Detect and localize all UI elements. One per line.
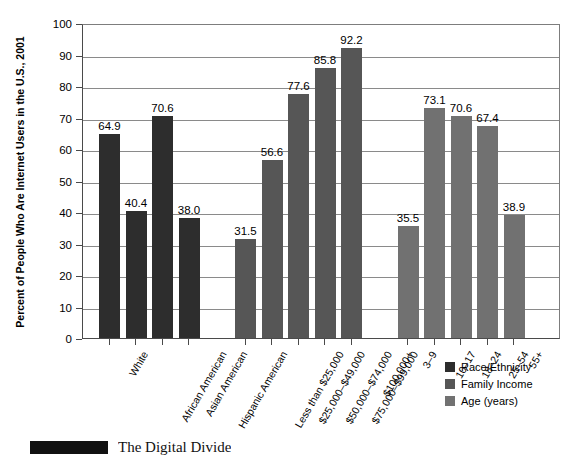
y-axis-tick-mark xyxy=(76,24,82,25)
bar-value-label: 85.8 xyxy=(314,54,336,66)
y-axis-tick-mark xyxy=(76,119,82,120)
x-axis-tick-mark xyxy=(298,339,299,345)
plot-area: 64.940.470.638.031.556.677.685.892.235.5… xyxy=(82,24,560,339)
bar-value-label: 70.6 xyxy=(151,102,173,114)
bar: 64.9 xyxy=(99,134,120,338)
bar: 77.6 xyxy=(288,94,309,338)
bar: 85.8 xyxy=(315,68,336,338)
bar-value-label: 35.5 xyxy=(397,212,419,224)
x-axis-tick-mark xyxy=(434,339,435,345)
bar: 35.5 xyxy=(398,226,419,338)
x-axis-tick-mark xyxy=(109,339,110,345)
caption-marker xyxy=(30,441,108,454)
x-axis-tick-mark xyxy=(271,339,272,345)
bar-value-label: 77.6 xyxy=(287,80,309,92)
bar-value-label: 31.5 xyxy=(234,225,256,237)
x-axis-tick-mark xyxy=(487,339,488,345)
legend-label: Family Income xyxy=(461,378,533,390)
y-axis-tick-label: 60 xyxy=(44,144,72,156)
y-axis-tick-label: 20 xyxy=(44,270,72,282)
y-axis-tick-mark xyxy=(76,87,82,88)
x-axis-tick-mark xyxy=(135,339,136,345)
bar-value-label: 64.9 xyxy=(98,120,120,132)
y-axis-tick-label: 80 xyxy=(44,81,72,93)
legend-swatch xyxy=(445,362,455,372)
bar: 40.4 xyxy=(126,211,147,338)
y-axis-tick-mark xyxy=(76,339,82,340)
bar-value-label: 40.4 xyxy=(125,197,147,209)
y-axis-tick-mark xyxy=(76,150,82,151)
x-axis-tick-mark xyxy=(513,339,514,345)
y-axis-tick-label: 50 xyxy=(44,176,72,188)
y-axis-tick-mark xyxy=(76,213,82,214)
x-axis-tick-label: White xyxy=(126,349,150,378)
legend-item: Race/Ethnicity xyxy=(445,360,533,374)
y-axis-title-container: Percent of People Who Are Internet Users… xyxy=(0,24,40,340)
bar-value-label: 56.6 xyxy=(261,146,283,158)
bar: 70.6 xyxy=(152,116,173,338)
y-axis-tick-label: 40 xyxy=(44,207,72,219)
y-axis-title: Percent of People Who Are Internet Users… xyxy=(14,36,27,327)
bar-value-label: 73.1 xyxy=(423,94,445,106)
x-axis-tick-mark xyxy=(162,339,163,345)
y-axis-tick-label: 30 xyxy=(44,239,72,251)
bar-value-label: 67.4 xyxy=(476,112,498,124)
x-axis-tick-mark xyxy=(351,339,352,345)
bar: 38.9 xyxy=(504,215,525,338)
y-axis-tick-label: 0 xyxy=(44,333,72,345)
bar-value-label: 92.2 xyxy=(340,34,362,46)
y-axis-tick-mark xyxy=(76,276,82,277)
bar: 56.6 xyxy=(262,160,283,338)
y-axis-tick-label: 10 xyxy=(44,302,72,314)
bar: 38.0 xyxy=(179,218,200,338)
y-axis-tick-label: 90 xyxy=(44,50,72,62)
bar: 67.4 xyxy=(477,126,498,338)
bar-value-label: 38.9 xyxy=(503,201,525,213)
bar: 73.1 xyxy=(424,108,445,338)
y-axis-tick-mark xyxy=(76,182,82,183)
x-axis-tick-mark xyxy=(188,339,189,345)
legend-item: Family Income xyxy=(445,377,533,391)
x-axis-tick-mark xyxy=(407,339,408,345)
legend-label: Age (years) xyxy=(461,395,518,407)
legend-item: Age (years) xyxy=(445,394,533,408)
legend-label: Race/Ethnicity xyxy=(461,361,531,373)
x-axis-tick-mark xyxy=(460,339,461,345)
y-axis-tick-label: 70 xyxy=(44,113,72,125)
bar: 92.2 xyxy=(341,48,362,338)
y-axis-tick-label: 100 xyxy=(44,18,72,30)
bar-value-label: 38.0 xyxy=(178,204,200,216)
x-axis-tick-label: 3–9 xyxy=(420,349,439,370)
legend-swatch xyxy=(445,396,455,406)
chart-legend: Race/EthnicityFamily IncomeAge (years) xyxy=(445,360,533,411)
x-axis-tick-mark xyxy=(245,339,246,345)
caption-text: The Digital Divide xyxy=(118,439,231,455)
bar-value-label: 70.6 xyxy=(450,102,472,114)
x-axis-tick-mark xyxy=(324,339,325,345)
chart-figure: Percent of People Who Are Internet Users… xyxy=(0,0,582,455)
y-axis-tick-mark xyxy=(76,308,82,309)
bar: 70.6 xyxy=(451,116,472,338)
y-axis-tick-mark xyxy=(76,245,82,246)
y-axis-tick-mark xyxy=(76,56,82,57)
bar: 31.5 xyxy=(235,239,256,338)
legend-swatch xyxy=(445,379,455,389)
